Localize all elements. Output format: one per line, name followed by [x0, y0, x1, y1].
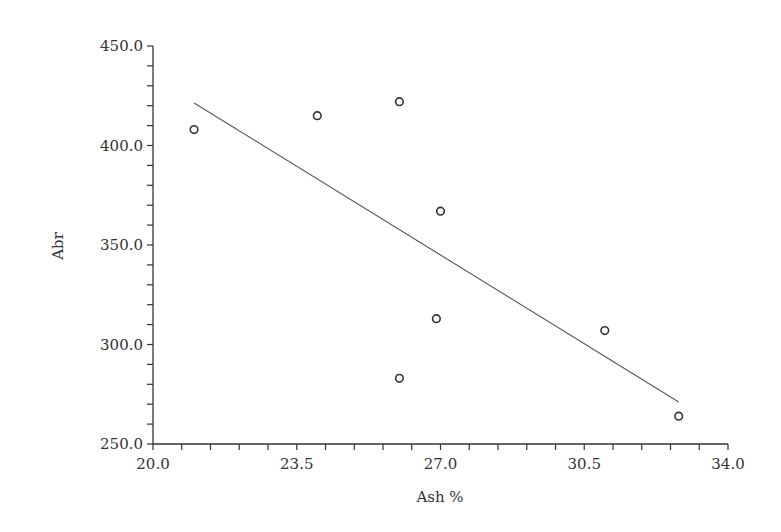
x-tick-label: 27.0	[424, 455, 457, 473]
x-tick-label: 23.5	[280, 455, 313, 473]
fit-line	[194, 103, 679, 402]
axes	[153, 46, 728, 444]
data-point-circle-icon	[396, 98, 404, 106]
x-tick-label: 30.5	[568, 455, 601, 473]
y-tick-label: 350.0	[100, 236, 143, 254]
x-axis-ticks: 20.023.527.030.534.0	[136, 444, 744, 473]
y-axis-ticks: 250.0300.0350.0400.0450.0	[100, 37, 153, 453]
data-point-circle-icon	[190, 126, 198, 134]
data-point-circle-icon	[433, 315, 441, 323]
y-tick-label: 250.0	[100, 435, 143, 453]
data-point-circle-icon	[601, 327, 609, 335]
x-axis-title: Ash %	[415, 488, 463, 506]
regression-line	[194, 103, 679, 402]
data-point-circle-icon	[437, 207, 445, 215]
data-point-circle-icon	[396, 375, 404, 383]
y-tick-label: 400.0	[100, 137, 143, 155]
y-tick-label: 300.0	[100, 336, 143, 354]
y-axis-title: Abr	[49, 231, 67, 260]
scatter-chart: 20.023.527.030.534.0 250.0300.0350.0400.…	[0, 0, 781, 532]
data-point-circle-icon	[313, 112, 321, 120]
x-tick-label: 34.0	[711, 455, 744, 473]
data-point-circle-icon	[675, 412, 683, 420]
x-tick-label: 20.0	[136, 455, 169, 473]
y-tick-label: 450.0	[100, 37, 143, 55]
